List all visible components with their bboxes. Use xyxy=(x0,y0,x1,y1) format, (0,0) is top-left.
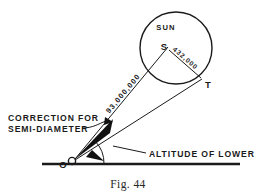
tangent-point-label: T xyxy=(205,79,211,90)
figure-container: SUN S T O 93,000,000 432,000 CORRECTION … xyxy=(0,0,256,195)
astronomy-diagram: SUN S T O 93,000,000 432,000 CORRECTION … xyxy=(0,0,256,195)
altitude-leader-line xyxy=(113,146,146,153)
ray-observer-to-sun-center xyxy=(75,47,168,159)
correction-label-line1: CORRECTION FOR xyxy=(8,113,99,123)
observer-label: O xyxy=(59,159,66,170)
correction-label-line2: SEMI-DIAMETER xyxy=(8,124,88,134)
earth-sun-distance-label: 93,000,000 xyxy=(104,72,142,115)
figure-caption: Fig. 44 xyxy=(0,178,256,190)
altitude-label: ALTITUDE OF LOWER LIMB xyxy=(149,149,256,159)
sun-label: SUN xyxy=(156,23,175,32)
sun-center-label: S xyxy=(161,41,167,52)
sun-radius-label: 432,000 xyxy=(171,45,200,71)
